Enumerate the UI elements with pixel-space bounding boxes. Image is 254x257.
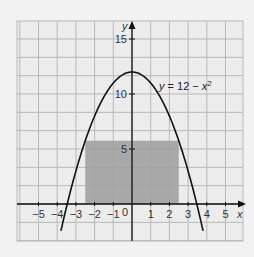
x-tick-label: 2 <box>166 208 172 220</box>
parabola-chart: −5−4−3−2−11234551015 x y 0 y = 12 − x2 <box>0 0 254 257</box>
y-tick-label: 10 <box>115 88 127 100</box>
x-tick-label: 5 <box>222 208 228 220</box>
y-tick-label: 15 <box>115 33 127 45</box>
x-tick-label: −2 <box>88 208 101 220</box>
equation-exponent: 2 <box>207 79 212 88</box>
x-tick-label: 3 <box>185 208 191 220</box>
x-tick-label: −3 <box>70 208 83 220</box>
x-tick-label: 1 <box>148 208 154 220</box>
x-tick-label: −5 <box>32 208 45 220</box>
x-tick-label: −4 <box>51 208 64 220</box>
x-axis-label: x <box>236 208 243 220</box>
x-tick-label: −1 <box>107 208 120 220</box>
x-tick-label: 4 <box>204 208 210 220</box>
equation-mid: = 12 − <box>165 80 202 92</box>
origin-label: 0 <box>122 206 128 218</box>
y-tick-label: 5 <box>121 143 127 155</box>
equation-label: y = 12 − x2 <box>158 79 212 92</box>
